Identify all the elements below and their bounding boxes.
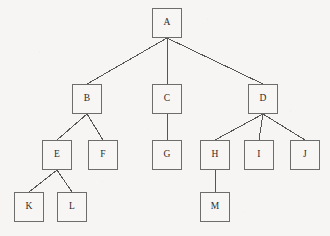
tree-node-label: H <box>211 150 218 160</box>
tree-edge-b-f <box>87 114 103 140</box>
tree-node-h[interactable]: H <box>200 140 230 170</box>
tree-edge-e-l <box>57 170 72 192</box>
tree-node-label: F <box>100 150 105 160</box>
tree-edge-b-e <box>57 114 87 140</box>
tree-node-a[interactable]: A <box>152 8 182 38</box>
tree-node-label: C <box>164 94 171 104</box>
tree-node-b[interactable]: B <box>72 84 102 114</box>
tree-node-k[interactable]: K <box>14 192 44 222</box>
tree-node-j[interactable]: J <box>290 140 320 170</box>
tree-node-label: G <box>163 150 170 160</box>
tree-edge-d-h <box>215 114 263 140</box>
tree-edge-a-b <box>87 38 167 84</box>
tree-node-l[interactable]: L <box>57 192 87 222</box>
tree-node-f[interactable]: F <box>88 140 118 170</box>
tree-edge-a-d <box>167 38 263 84</box>
tree-node-label: K <box>25 202 32 212</box>
tree-node-label: M <box>211 202 220 212</box>
tree-edge-d-i <box>259 114 263 140</box>
tree-node-c[interactable]: C <box>152 84 182 114</box>
tree-edge-d-j <box>263 114 305 140</box>
tree-node-g[interactable]: G <box>152 140 182 170</box>
tree-node-label: I <box>257 150 260 160</box>
tree-diagram: ABCDEFGHIJKLM <box>0 0 330 236</box>
tree-node-d[interactable]: D <box>248 84 278 114</box>
tree-node-label: A <box>163 18 170 28</box>
tree-edge-e-k <box>29 170 57 192</box>
tree-node-i[interactable]: I <box>244 140 274 170</box>
tree-node-label: E <box>54 150 60 160</box>
tree-node-label: B <box>84 94 91 104</box>
tree-node-e[interactable]: E <box>42 140 72 170</box>
tree-node-label: L <box>69 202 75 212</box>
tree-node-m[interactable]: M <box>200 192 230 222</box>
tree-node-label: J <box>303 150 307 160</box>
tree-node-label: D <box>259 94 266 104</box>
